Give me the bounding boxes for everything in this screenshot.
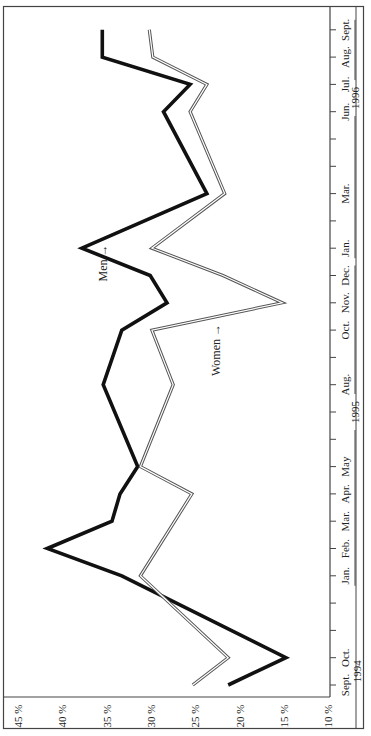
series-annotation-women: Women →	[209, 324, 223, 376]
series-annotation-men: Men →	[96, 245, 110, 282]
month-tick-label: Aug.	[339, 46, 351, 68]
month-tick-label: Jan.	[339, 567, 351, 585]
series-men	[47, 30, 286, 685]
month-tick-label: Mar.	[339, 183, 351, 204]
month-tick-label: May	[339, 456, 351, 477]
value-tick-label: 20 %	[234, 705, 246, 728]
axes	[4, 7, 357, 729]
year-label: 1994	[351, 660, 363, 683]
month-tick-label: Oct.	[339, 321, 351, 340]
outer-frame	[4, 7, 364, 729]
value-tick-label: 45 %	[12, 705, 24, 728]
value-tick-label: 40 %	[56, 705, 68, 728]
month-tick-label: Sept.	[339, 18, 351, 41]
value-tick-label: 30 %	[145, 705, 157, 728]
month-tick-label: Nov.	[339, 292, 351, 313]
month-tick-label: Aug.	[339, 374, 351, 396]
value-tick-label: 10 %	[322, 705, 334, 728]
month-tick-label: Jan.	[339, 239, 351, 257]
value-tick-label: 35 %	[101, 705, 113, 728]
line-chart: 45 %40 %35 %30 %25 %20 %15 %10 %Sept.Oct…	[0, 0, 371, 736]
month-tick-label: Feb.	[339, 539, 351, 559]
value-tick-label: 15 %	[278, 705, 290, 728]
month-tick-label: Oct.	[339, 648, 351, 667]
month-tick-label: Apr.	[339, 484, 351, 504]
year-label: 1995	[349, 401, 361, 424]
month-tick-label: Dec.	[339, 265, 351, 286]
month-tick-label: Sept.	[339, 674, 351, 697]
month-tick-label: Mar.	[339, 511, 351, 532]
year-label: 1996	[349, 87, 361, 110]
series-lines	[47, 30, 286, 685]
value-tick-label: 25 %	[189, 705, 201, 728]
